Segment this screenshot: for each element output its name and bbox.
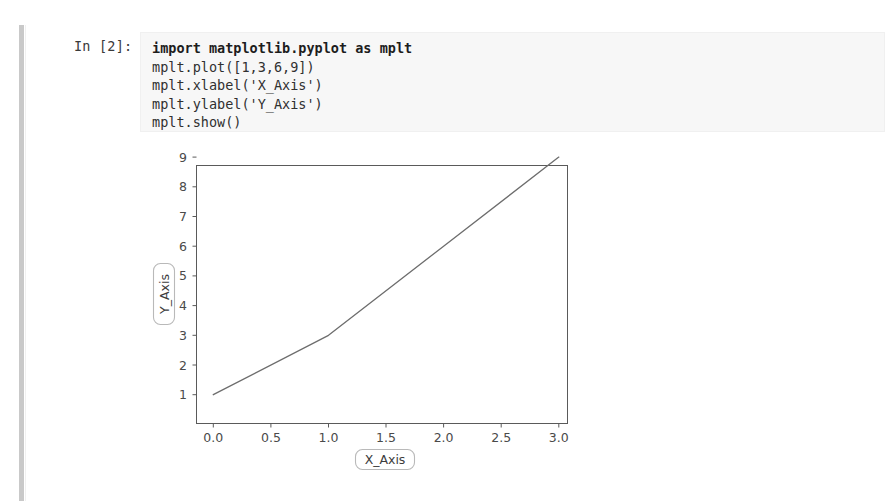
y-tick-label: 3 bbox=[179, 328, 187, 343]
x-axis-tick-labels: 0.0 0.5 1.0 1.5 2.0 2.5 3.0 bbox=[203, 430, 568, 445]
x-tick-label: 0.5 bbox=[261, 430, 281, 445]
code-line-3: mplt.xlabel('X_Axis') bbox=[152, 77, 323, 93]
code-line-1-alias: mplt bbox=[380, 40, 413, 56]
code-text: import matplotlib.pyplot as mplt mplt.pl… bbox=[152, 39, 412, 132]
y-tick-label: 2 bbox=[179, 358, 187, 373]
y-axis-label: Y_Axis bbox=[157, 274, 172, 315]
code-line-4: mplt.ylabel('Y_Axis') bbox=[152, 96, 323, 112]
y-tick-label: 6 bbox=[179, 239, 187, 254]
y-tick-label: 8 bbox=[179, 179, 187, 194]
x-tick-label: 1.5 bbox=[376, 430, 396, 445]
matplotlib-figure: 1 2 3 4 5 6 7 8 9 0.0 bbox=[150, 150, 620, 480]
x-tick-label: 1.0 bbox=[319, 430, 339, 445]
x-axis-ticks bbox=[213, 424, 559, 428]
figure-output: 1 2 3 4 5 6 7 8 9 0.0 bbox=[150, 150, 620, 480]
y-axis-ticks bbox=[193, 157, 197, 395]
x-axis-label-group: X_Axis bbox=[356, 450, 415, 470]
code-line-1-module: matplotlib.pyplot bbox=[209, 40, 347, 56]
left-margin-rail[interactable] bbox=[19, 25, 24, 501]
x-axis-label: X_Axis bbox=[365, 452, 406, 467]
y-tick-label: 5 bbox=[179, 268, 187, 283]
code-line-2: mplt.plot([1,3,6,9]) bbox=[152, 59, 315, 75]
y-axis-label-group: Y_Axis bbox=[154, 264, 175, 325]
notebook-page: In [2]: import matplotlib.pyplot as mplt… bbox=[0, 0, 892, 501]
y-axis-tick-labels: 1 2 3 4 5 6 7 8 9 bbox=[179, 150, 187, 402]
cell-prompt-label: In [2]: bbox=[74, 38, 132, 54]
code-line-1-keyword: import bbox=[152, 40, 201, 56]
y-tick-label: 4 bbox=[179, 298, 187, 313]
y-tick-label: 7 bbox=[179, 209, 187, 224]
x-tick-label: 0.0 bbox=[203, 430, 223, 445]
code-line-1-as: as bbox=[355, 40, 371, 56]
y-tick-label: 9 bbox=[179, 150, 187, 165]
y-tick-label: 1 bbox=[179, 387, 187, 402]
x-tick-label: 2.0 bbox=[434, 430, 454, 445]
x-tick-label: 2.5 bbox=[491, 430, 511, 445]
code-cell[interactable]: In [2]: import matplotlib.pyplot as mplt… bbox=[32, 30, 888, 134]
code-input-area[interactable]: import matplotlib.pyplot as mplt mplt.pl… bbox=[140, 32, 885, 132]
code-line-5: mplt.show() bbox=[152, 114, 241, 130]
x-tick-label: 3.0 bbox=[549, 430, 569, 445]
